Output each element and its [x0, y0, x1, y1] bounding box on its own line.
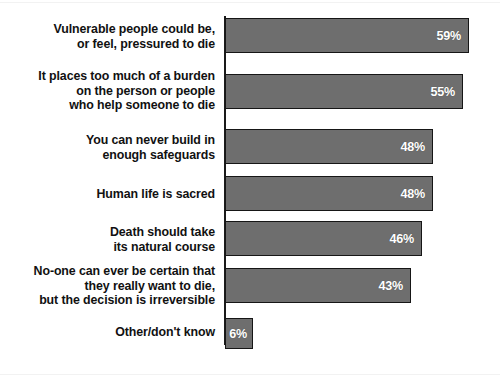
- bar-value-label: 55%: [430, 85, 462, 99]
- bar: 55%: [225, 74, 463, 109]
- bar-value-label: 48%: [400, 187, 432, 201]
- category-label: Vulnerable people could be, or feel, pre…: [0, 22, 215, 51]
- bar-value-label: 43%: [378, 279, 410, 293]
- bar-value-label: 48%: [400, 140, 432, 154]
- bar-value-label: 46%: [389, 232, 421, 246]
- plot-area: Vulnerable people could be, or feel, pre…: [0, 0, 500, 381]
- bar: 48%: [225, 129, 433, 164]
- bar: 43%: [225, 268, 411, 303]
- category-label: No-one can ever be certain that they rea…: [0, 264, 215, 308]
- bar: 48%: [225, 176, 433, 211]
- bar-chart: Vulnerable people could be, or feel, pre…: [0, 0, 500, 381]
- category-label: Other/don't know: [0, 325, 215, 340]
- bar: 6%: [225, 318, 253, 349]
- category-label: Death should take its natural course: [0, 225, 215, 254]
- category-label: Human life is sacred: [0, 187, 215, 202]
- category-label: It places too much of a burden on the pe…: [0, 69, 215, 113]
- bar-value-label: 6%: [229, 327, 252, 341]
- bar: 46%: [225, 221, 422, 256]
- bar: 59%: [225, 18, 469, 53]
- bar-value-label: 59%: [436, 29, 468, 43]
- category-label: You can never build in enough safeguards: [0, 133, 215, 162]
